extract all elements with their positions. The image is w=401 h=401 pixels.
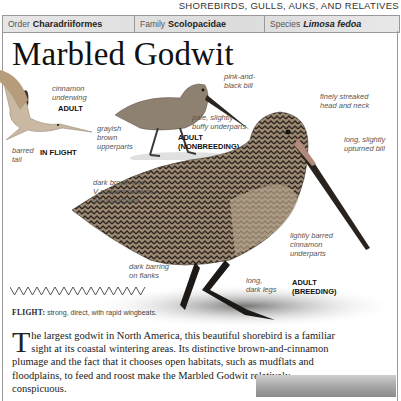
flight-pattern-text: FLIGHT: strong, direct, with rapid wingb… — [12, 308, 157, 317]
taxonomy-species: Species Limosa fedoa — [265, 16, 399, 32]
order-label: Order — [8, 19, 30, 29]
label-long-dark-legs: long,dark legs — [246, 276, 276, 294]
label-finely-streaked-head: finely streakedhead and neck — [320, 92, 369, 110]
flight-description: strong, direct, with rapid wingbeats. — [47, 309, 157, 316]
family-value: Scolopacidae — [168, 19, 226, 29]
species-value: Limosa fedoa — [303, 19, 361, 29]
flight-label: FLIGHT: — [12, 308, 45, 317]
dropcap: T — [12, 330, 30, 354]
label-barred-cinnamon-underparts: lightly barredcinnamonunderparts — [290, 231, 333, 258]
habitat-photo — [256, 375, 396, 397]
family-label: Family — [140, 19, 165, 29]
flight-pattern-zigzag-icon — [10, 285, 150, 297]
species-label: Species — [270, 19, 300, 29]
label-v-shaped-patterns: dark brown andV-shaped patternson upperp… — [93, 178, 154, 205]
taxonomy-family: Family Scolopacidae — [135, 16, 265, 32]
taxonomy-order: Order Charadriiformes — [3, 16, 135, 32]
caption-breeding: ADULT(BREEDING) — [292, 278, 337, 296]
label-upturned-bill: long, slightlyupturned bill — [344, 135, 385, 153]
label-barred-tail: barredtail — [12, 146, 34, 164]
section-header: SHOREBIRDS, GULLS, AUKS, AND RELATIVES — [179, 0, 399, 11]
order-value: Charadriiformes — [33, 19, 103, 29]
page-title: Marbled Godwit — [12, 36, 234, 73]
label-dark-barring-flanks: dark barringon flanks — [129, 262, 169, 280]
label-pink-black-bill: pink-and-black bill — [224, 72, 255, 90]
